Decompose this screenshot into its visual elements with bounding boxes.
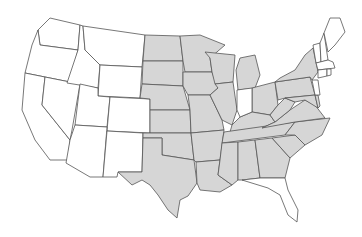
- state-NM: [103, 131, 143, 177]
- state-AZ: [66, 125, 107, 177]
- state-WY: [98, 65, 142, 98]
- state-MI: [236, 55, 260, 90]
- state-CT: [318, 69, 327, 78]
- state-ND: [143, 35, 183, 61]
- state-IN: [237, 88, 252, 117]
- state-SD: [142, 61, 183, 86]
- us-map: [0, 0, 362, 237]
- state-FL: [242, 178, 298, 222]
- state-ME: [324, 18, 345, 52]
- state-CO: [107, 97, 150, 133]
- state-AR: [191, 130, 224, 162]
- state-KS: [150, 110, 191, 133]
- state-NY: [275, 48, 318, 82]
- highlighted-group: [118, 35, 330, 218]
- state-RI: [327, 69, 331, 76]
